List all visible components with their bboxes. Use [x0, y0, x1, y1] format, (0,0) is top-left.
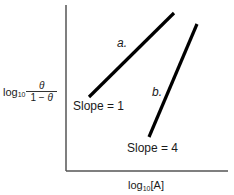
- x-log-subscript: 10: [143, 185, 151, 192]
- y-fraction-denominator: 1 − θ: [28, 92, 54, 103]
- x-arg-text: [A]: [150, 179, 163, 191]
- slope-b-annotation: Slope = 4: [127, 141, 178, 155]
- den-theta: θ: [47, 92, 52, 103]
- line-b-label: b.: [152, 85, 162, 99]
- y-fraction-numerator: θ: [26, 80, 56, 92]
- line-a-label: a.: [117, 36, 127, 50]
- y-fraction: θ 1 − θ: [28, 80, 54, 103]
- slope-a-annotation: Slope = 1: [73, 99, 124, 113]
- y-log-subscript: 10: [18, 91, 26, 98]
- x-log-text: log: [128, 179, 143, 191]
- line-b: [149, 24, 197, 137]
- den-one: 1 −: [30, 92, 47, 103]
- x-axis-label: log10[A]: [128, 179, 164, 191]
- y-axis-label: log 10 θ 1 − θ: [3, 80, 55, 103]
- y-log-text: log: [3, 86, 18, 98]
